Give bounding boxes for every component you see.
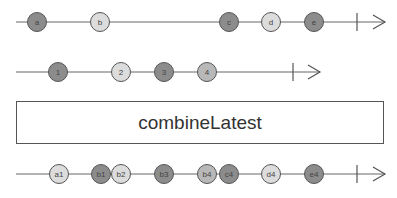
marble: e	[305, 13, 324, 32]
marble-label: 2	[119, 68, 124, 77]
marble: 1	[49, 63, 68, 82]
stream-output: a1b1b2b3b4c4d4e4	[16, 165, 385, 184]
marble-label: b1	[97, 170, 106, 179]
marble: 4	[198, 63, 217, 82]
marble: a	[28, 13, 47, 32]
operator-box: combineLatest	[16, 101, 384, 144]
stream-source-1: abcde	[16, 13, 385, 32]
marble-label: b3	[160, 170, 169, 179]
marble: b	[91, 13, 110, 32]
marble-diagram: abcde1234a1b1b2b3b4c4d4e4	[0, 0, 397, 198]
marble-label: 3	[162, 68, 167, 77]
marble-label: b2	[117, 170, 126, 179]
marble-label: a1	[55, 170, 64, 179]
marble-label: b	[98, 18, 103, 27]
marble-label: e	[312, 18, 317, 27]
marble: b3	[155, 165, 174, 184]
marble: 3	[155, 63, 174, 82]
marble-label: c4	[225, 170, 234, 179]
marble-label: a	[35, 18, 40, 27]
marble-label: b4	[203, 170, 212, 179]
stream-source-2: 1234	[16, 63, 320, 82]
marble: d4	[262, 165, 281, 184]
marble: d	[262, 13, 281, 32]
marble: b1	[92, 165, 111, 184]
marble: a1	[50, 165, 69, 184]
marble: c	[220, 13, 239, 32]
marble-label: 4	[205, 68, 210, 77]
operator-label: combineLatest	[138, 112, 262, 134]
marble-label: e4	[310, 170, 319, 179]
marble: c4	[220, 165, 239, 184]
marble: e4	[305, 165, 324, 184]
marble-label: c	[227, 18, 231, 27]
marble-label: 1	[56, 68, 61, 77]
marble: 2	[112, 63, 131, 82]
marble: b2	[112, 165, 131, 184]
marble-label: d4	[267, 170, 276, 179]
marble-label: d	[269, 18, 273, 27]
marble: b4	[198, 165, 217, 184]
